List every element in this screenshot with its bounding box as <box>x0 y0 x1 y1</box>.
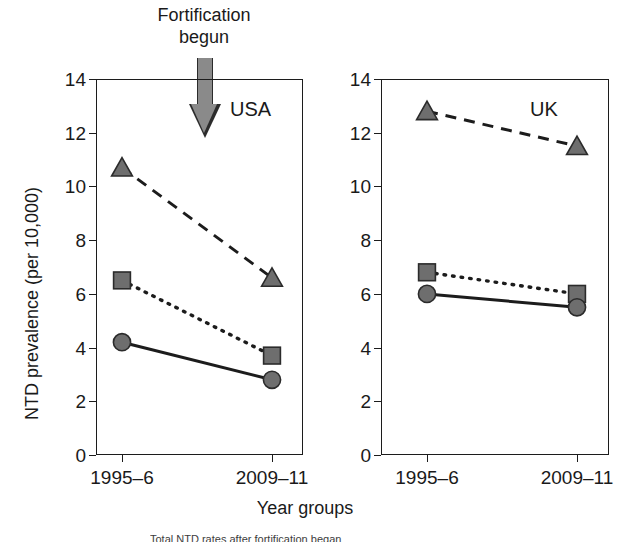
figure-caption: Total NTD rates after fortification bega… <box>150 533 570 542</box>
x-axis-title: Year groups <box>205 498 405 519</box>
